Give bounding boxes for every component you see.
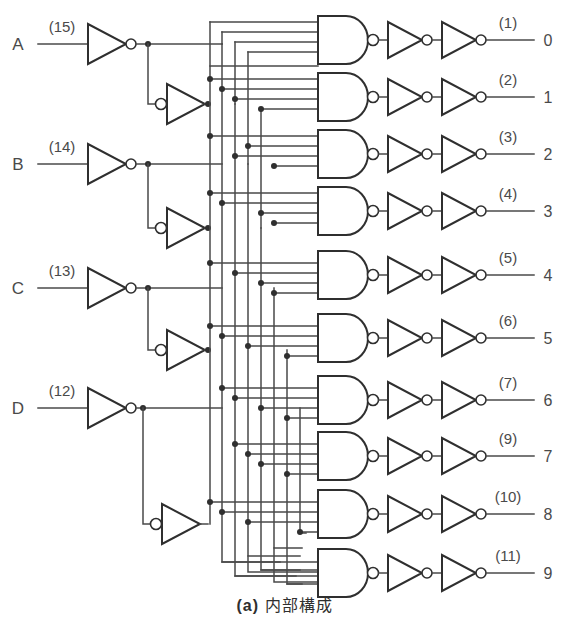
input-pin-c: (13) <box>49 262 76 279</box>
input-label-d: D <box>12 399 24 418</box>
output-number-5: 5 <box>544 330 553 347</box>
input-stage-d <box>38 388 222 544</box>
signal-bus <box>210 44 318 584</box>
input-pin-a: (15) <box>49 18 76 35</box>
decode-row-4 <box>207 251 534 299</box>
output-pin-3: (4) <box>499 185 517 202</box>
decode-row-0 <box>210 16 534 164</box>
output-pin-4: (5) <box>499 249 517 266</box>
decode-row-3 <box>207 187 534 235</box>
output-number-6: 6 <box>544 392 553 409</box>
output-pin-6: (7) <box>499 374 517 391</box>
input-stage-c <box>38 268 222 370</box>
output-number-9: 9 <box>544 565 553 582</box>
input-pin-d: (12) <box>49 382 76 399</box>
figure-caption: (a) 内部構成 <box>0 592 569 616</box>
input-stage-a <box>38 24 222 124</box>
input-label-b: B <box>12 155 23 174</box>
output-pin-7: (9) <box>499 430 517 447</box>
output-pin-8: (10) <box>495 488 522 505</box>
output-number-3: 3 <box>544 203 553 220</box>
output-number-1: 1 <box>544 89 553 106</box>
decode-row-8 <box>207 490 534 538</box>
output-number-8: 8 <box>544 506 553 523</box>
output-pin-2: (3) <box>499 128 517 145</box>
input-pin-b: (14) <box>49 138 76 155</box>
input-label-a: A <box>12 35 24 54</box>
output-number-0: 0 <box>544 32 553 49</box>
logic-diagram: A B C D (15) (14) (13) (12) (1) (2) (3) … <box>0 0 569 624</box>
decode-row-2 <box>207 130 534 178</box>
figure-caption-text: 内部構成 <box>265 597 333 614</box>
decode-row-5 <box>207 314 534 362</box>
output-pin-9: (11) <box>495 547 521 564</box>
input-stage-b <box>38 144 222 248</box>
output-pin-0: (1) <box>499 14 517 31</box>
input-label-c: C <box>12 279 24 298</box>
figure-caption-label: (a) <box>236 597 259 614</box>
decode-row-7 <box>232 432 534 480</box>
output-number-4: 4 <box>544 267 553 284</box>
output-pin-1: (2) <box>499 71 517 88</box>
output-number-2: 2 <box>544 146 553 163</box>
decode-row-6 <box>219 376 534 424</box>
output-number-7: 7 <box>544 448 553 465</box>
output-pin-5: (6) <box>499 312 517 329</box>
